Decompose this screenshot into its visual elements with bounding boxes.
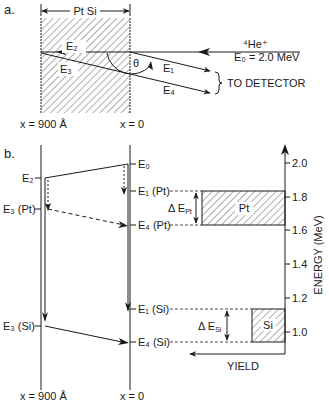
x-front-label-b: x = 0: [120, 390, 144, 402]
svg-text:1.2: 1.2: [292, 292, 307, 304]
film-label: Pt Si: [73, 5, 96, 17]
detector-label: TO DETECTOR: [227, 77, 305, 89]
left-label-e3-si: E₃ (Si): [3, 320, 35, 332]
right-label-e1-pt: E₁ (Pt): [138, 185, 170, 197]
svg-text:2.0: 2.0: [292, 157, 307, 169]
brace-icon: [215, 72, 222, 94]
svg-text:1.0: 1.0: [292, 326, 307, 338]
si-peak-label: Si: [263, 319, 273, 331]
e2-label: E₂: [66, 40, 78, 52]
svg-text:1.8: 1.8: [292, 191, 307, 203]
right-label-e0: E₀: [138, 158, 150, 170]
yield-label: YIELD: [227, 360, 259, 372]
svg-text:1.4: 1.4: [292, 258, 307, 270]
x-front-label-a: x = 0: [120, 118, 144, 130]
left-label-e3-pt: E₃ (Pt): [3, 203, 36, 215]
right-label-e1-si: E₁ (Si): [138, 303, 169, 315]
x-back-label-b: x = 900 Å: [20, 390, 67, 402]
left-label-e2: E₂: [22, 172, 34, 184]
energy-axis-label: ENERGY (MeV): [312, 215, 324, 294]
x-back-label-a: x = 900 Å: [20, 118, 67, 130]
delta-e-si-label: Δ ESi: [198, 320, 222, 333]
film-width-dimension: Pt Si: [41, 4, 130, 17]
beam-energy: E₀ = 2.0 MeV: [234, 51, 300, 63]
beam-species: ⁴He⁺: [243, 38, 268, 50]
delta-e-pt-label: Δ EPt: [168, 202, 192, 215]
theta-label: θ: [133, 57, 139, 69]
part-b-label: b.: [4, 146, 15, 161]
e4-label: E₄: [163, 84, 175, 96]
e1-label: E₁: [163, 62, 174, 74]
part-a-label: a.: [4, 2, 15, 17]
ptsi-film: [41, 18, 130, 113]
pt-peak-label: Pt: [239, 202, 249, 214]
svg-text:1.6: 1.6: [292, 224, 307, 236]
right-label-e4-pt: E₄ (Pt): [138, 219, 171, 231]
e3-label: E₃: [60, 63, 72, 75]
energy-ticks: 2.0 1.8 1.6 1.4 1.2 1.0: [285, 157, 307, 338]
right-label-e4-si: E₄ (Si): [138, 336, 170, 348]
rbs-diagram: a. Pt Si E₂ ⁴He⁺ E₀ = 2.0 MeV E₃ θ E₁ E₄…: [0, 0, 329, 404]
